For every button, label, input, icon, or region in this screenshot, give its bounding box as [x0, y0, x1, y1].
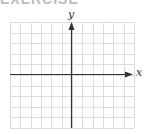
y-axis-label: y: [68, 8, 74, 21]
x-axis-label: x: [136, 66, 142, 79]
x-axis-arrow-icon: [125, 72, 133, 78]
coordinate-grid: [0, 0, 149, 134]
y-axis-arrow-icon: [69, 22, 75, 30]
